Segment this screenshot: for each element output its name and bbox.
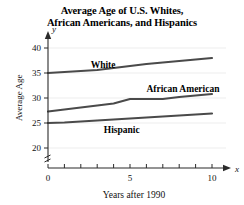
chart-plot-area: 20253035400510yx bbox=[0, 0, 244, 205]
chart-figure: Average Age of U.S. Whites, African Amer… bbox=[0, 0, 244, 205]
y-axis-arrow bbox=[45, 31, 51, 39]
x-axis-variable: x bbox=[234, 164, 239, 174]
x-axis-arrow bbox=[223, 165, 231, 171]
x-tick-label-10: 10 bbox=[208, 173, 218, 183]
series-label-white: White bbox=[91, 60, 116, 70]
series-line-white bbox=[48, 58, 212, 73]
y-tick-label-40: 40 bbox=[32, 43, 42, 53]
y-tick-label-30: 30 bbox=[32, 93, 42, 103]
series-line-african-american bbox=[48, 94, 212, 112]
x-tick-label-5: 5 bbox=[128, 173, 133, 183]
axes-group bbox=[45, 31, 232, 171]
y-axis-label: Average Age bbox=[14, 74, 24, 121]
series-line-hispanic bbox=[48, 114, 212, 124]
y-tick-label-35: 35 bbox=[32, 68, 42, 78]
y-tick-label-25: 25 bbox=[32, 118, 42, 128]
series-label-hispanic: Hispanic bbox=[104, 125, 140, 135]
series-label-african-american: African American bbox=[146, 84, 219, 94]
x-axis-label: Years after 1990 bbox=[12, 190, 244, 200]
x-tick-label-0: 0 bbox=[46, 173, 51, 183]
y-axis-variable: y bbox=[51, 24, 56, 34]
y-tick-label-20: 20 bbox=[32, 143, 42, 153]
